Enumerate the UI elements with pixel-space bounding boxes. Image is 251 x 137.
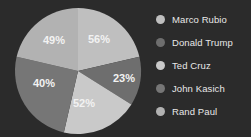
pie-chart-plot-area: 56%23%52%40%49%	[0, 0, 152, 137]
legend-item[interactable]: John Kasich	[152, 77, 251, 100]
legend-item-label: Rand Paul	[172, 106, 217, 117]
pie-slice-value-label: 52%	[73, 97, 95, 109]
legend-item[interactable]: Ted Cruz	[152, 54, 251, 77]
legend-item-label: Marco Rubio	[172, 14, 227, 25]
legend-item[interactable]: Rand Paul	[152, 100, 251, 123]
legend-item-label: Donald Trump	[172, 37, 233, 48]
legend-swatch-icon	[156, 15, 165, 24]
chart-legend: Marco RubioDonald TrumpTed CruzJohn Kasi…	[152, 8, 251, 130]
pie-slice-value-label: 49%	[43, 34, 65, 46]
legend-swatch-icon	[156, 107, 165, 116]
pie-slice-value-label: 56%	[88, 33, 110, 45]
legend-swatch-icon	[156, 61, 165, 70]
legend-swatch-icon	[156, 84, 165, 93]
legend-item[interactable]: Marco Rubio	[152, 8, 251, 31]
legend-item-label: John Kasich	[172, 83, 225, 94]
legend-item-label: Ted Cruz	[172, 60, 211, 71]
pie-chart-figure: 56%23%52%40%49% Marco RubioDonald TrumpT…	[0, 0, 251, 137]
pie-slice-value-label: 40%	[33, 77, 55, 89]
legend-swatch-icon	[156, 38, 165, 47]
pie-slice-value-label: 23%	[113, 72, 135, 84]
legend-item[interactable]: Donald Trump	[152, 31, 251, 54]
pie-chart-svg: 56%23%52%40%49%	[0, 0, 152, 137]
